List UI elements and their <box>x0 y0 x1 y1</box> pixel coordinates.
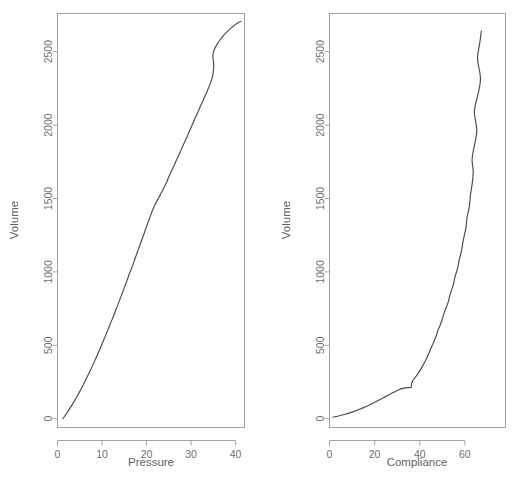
compliance-volume-plot: 05001000150020002500 0204060 Volume Comp… <box>261 0 522 470</box>
data-curve <box>333 31 481 417</box>
y-axis-ticks: 05001000150020002500 <box>315 40 330 422</box>
y-tick-label: 1500 <box>315 187 327 211</box>
x-tick-label: 20 <box>369 448 381 460</box>
x-tick-label: 10 <box>96 448 108 460</box>
chart-panel-pressure-volume: 05001000150020002500 010203040 Volume Pr… <box>0 0 261 493</box>
y-tick-label: 2500 <box>315 40 327 64</box>
x-axis-title: Pressure <box>128 456 174 468</box>
y-axis-ticks: 05001000150020002500 <box>43 40 58 422</box>
x-tick-label: 30 <box>185 448 197 460</box>
y-tick-label: 500 <box>43 336 55 354</box>
x-tick-label: 60 <box>459 448 471 460</box>
x-tick-label: 0 <box>55 448 61 460</box>
figure-two-panel-pv-curves: 05001000150020002500 010203040 Volume Pr… <box>0 0 522 493</box>
y-tick-label: 2000 <box>315 113 327 137</box>
y-tick-label: 1500 <box>43 187 55 211</box>
y-tick-label: 0 <box>43 416 55 422</box>
y-tick-label: 500 <box>315 336 327 354</box>
data-curve <box>63 21 241 418</box>
x-axis-title: Compliance <box>387 456 448 468</box>
plot-frame <box>330 14 506 428</box>
y-tick-label: 2000 <box>43 113 55 137</box>
plot-frame <box>58 14 245 428</box>
pressure-volume-plot: 05001000150020002500 010203040 Volume Pr… <box>0 0 261 470</box>
chart-panel-compliance-volume: 05001000150020002500 0204060 Volume Comp… <box>261 0 522 493</box>
x-tick-label: 0 <box>327 448 333 460</box>
y-axis-title: Volume <box>8 201 20 239</box>
y-tick-label: 2500 <box>43 40 55 64</box>
y-tick-label: 1000 <box>315 260 327 284</box>
x-tick-label: 40 <box>230 448 242 460</box>
y-tick-label: 1000 <box>43 260 55 284</box>
y-axis-title: Volume <box>280 201 292 239</box>
y-tick-label: 0 <box>315 416 327 422</box>
